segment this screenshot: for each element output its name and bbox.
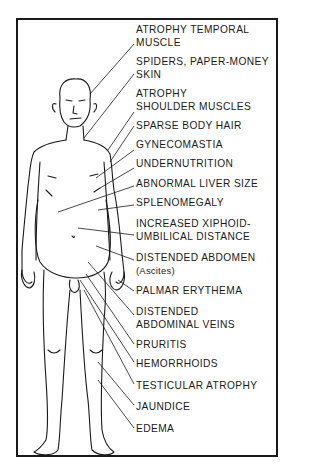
label-atrophy-shoulder-muscles: ATROPHYSHOULDER MUSCLES bbox=[136, 88, 251, 113]
leader-lines bbox=[58, 44, 134, 428]
label-undernutrition: UNDERNUTRITION bbox=[136, 158, 233, 171]
label-splenomegaly: SPLENOMEGALY bbox=[136, 197, 224, 210]
label-hemorrhoids: HEMORRHOIDS bbox=[136, 358, 218, 371]
label-increased-xiphoid-umbilical-distance: INCREASED XIPHOID-UMBILICAL DISTANCE bbox=[136, 218, 251, 243]
label-edema: EDEMA bbox=[136, 423, 174, 436]
abdomen-outline bbox=[35, 200, 110, 278]
label-pruritis: PRURITIS bbox=[136, 339, 187, 352]
label-sparse-body-hair: SPARSE BODY HAIR bbox=[136, 120, 242, 133]
head-outline bbox=[60, 79, 91, 127]
label-atrophy-temporal-muscle: ATROPHY TEMPORALMUSCLE bbox=[136, 24, 249, 49]
label-jaundice: JAUNDICE bbox=[136, 401, 190, 414]
label-spiders-paper-money-skin: SPIDERS, PAPER-MONEYSKIN bbox=[136, 56, 269, 81]
label-testicular-atrophy: TESTICULAR ATROPHY bbox=[136, 380, 257, 393]
label-distended-abdomen: DISTENDED ABDOMEN(Ascites) bbox=[136, 252, 255, 277]
label-distended-abdominal-veins: DISTENDEDABDOMINAL VEINS bbox=[136, 306, 235, 331]
label-palmar-erythema: PALMAR ERYTHEMA bbox=[136, 285, 242, 298]
label-gynecomastia: GYNECOMASTIA bbox=[136, 139, 223, 152]
label-abnormal-liver-size: ABNORMAL LIVER SIZE bbox=[136, 178, 258, 191]
